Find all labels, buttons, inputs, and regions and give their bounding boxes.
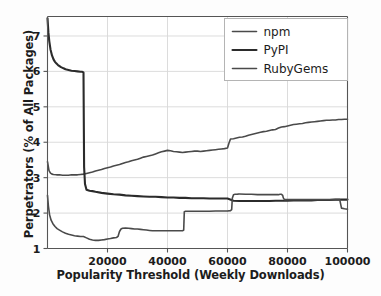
chart-figure: Perpetrators (% of All Packages) Popular…: [0, 0, 381, 296]
y-tick-label: 3: [0, 171, 41, 184]
y-tick-label: 6: [0, 65, 41, 78]
x-tick-label: 100000: [325, 255, 371, 268]
y-tick-label: 1: [0, 242, 41, 255]
x-tick-label: 40000: [148, 255, 186, 268]
x-tick-label: 60000: [208, 255, 246, 268]
legend-label-npm: npm: [264, 25, 291, 39]
y-tick-label: 7: [0, 29, 41, 42]
x-axis-label: Popularity Threshold (Weekly Downloads): [0, 268, 381, 282]
x-tick-label: 80000: [268, 255, 306, 268]
y-tick-label: 4: [0, 136, 41, 149]
legend-label-pypi: PyPI: [264, 43, 289, 57]
x-tick-label: 20000: [88, 255, 126, 268]
y-tick-label: 2: [0, 207, 41, 220]
line-chart-plot: [0, 0, 381, 296]
y-tick-label: 5: [0, 100, 41, 113]
legend-label-rubygems: RubyGems: [264, 62, 329, 76]
